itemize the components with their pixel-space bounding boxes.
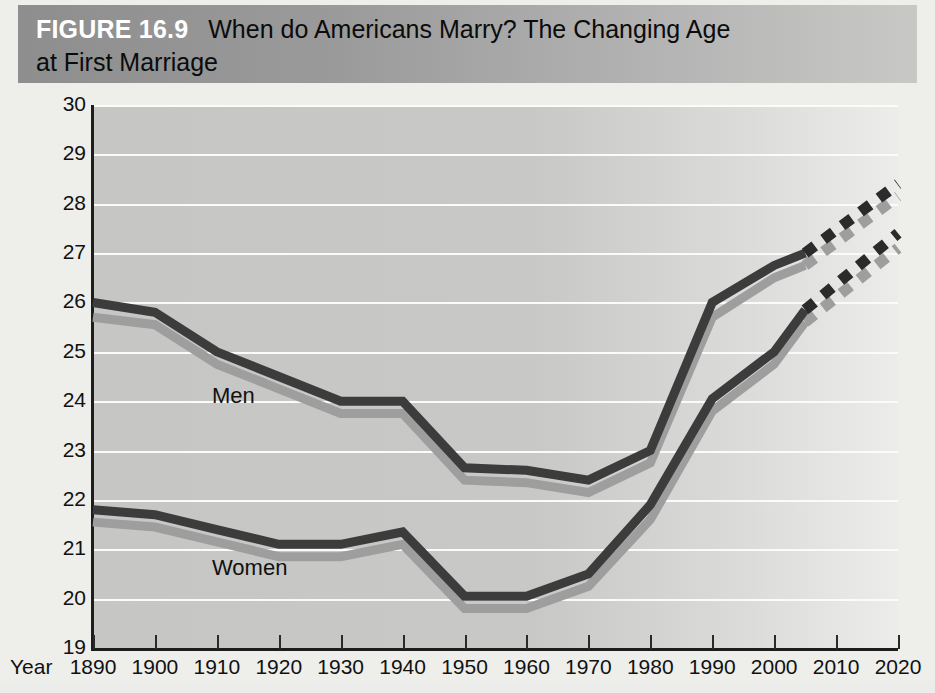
x-axis-tick-label: 1900	[132, 655, 179, 679]
gridline	[93, 204, 898, 206]
x-axis-tick-label: 1980	[627, 655, 674, 679]
figure-number-label: FIGURE 16.9	[36, 15, 188, 43]
x-axis-tick	[217, 635, 219, 649]
gridline	[93, 302, 898, 304]
figure-container: FIGURE 16.9When do Americans Marry? The …	[0, 0, 935, 693]
gridline	[93, 352, 898, 354]
x-axis-tick-label: 1970	[565, 655, 612, 679]
y-axis-tick-label: 30	[44, 92, 86, 116]
y-axis-tick-label: 25	[44, 339, 86, 363]
x-axis-tick-label: 1950	[441, 655, 488, 679]
y-axis-tick-label: 20	[44, 586, 86, 610]
x-axis-tick	[898, 635, 900, 649]
x-axis-tick-label: 1890	[70, 655, 117, 679]
series-label-women: Women	[212, 555, 287, 581]
series-label-men: Men	[212, 383, 255, 409]
y-axis-tick-label: 22	[44, 487, 86, 511]
x-axis-tick-label: 2020	[875, 655, 922, 679]
x-axis-tick-label: 1910	[193, 655, 240, 679]
x-axis-tick	[279, 635, 281, 649]
x-axis-tick	[155, 635, 157, 649]
x-axis-tick-label: 1930	[317, 655, 364, 679]
y-axis-tick-label: 21	[44, 536, 86, 560]
gridline	[93, 599, 898, 601]
figure-title-line-2: at First Marriage	[36, 46, 917, 79]
y-axis-tick-label: 27	[44, 240, 86, 264]
y-axis-title: Age	[0, 367, 1, 403]
gridline	[93, 500, 898, 502]
x-axis-tick-label: 1940	[379, 655, 426, 679]
y-axis-tick-label: 28	[44, 191, 86, 215]
x-axis-tick	[774, 635, 776, 649]
x-axis-tick	[836, 635, 838, 649]
figure-title-text-1: When do Americans Marry? The Changing Ag…	[208, 15, 730, 43]
y-axis-tick-label: 29	[44, 141, 86, 165]
x-axis-tick	[465, 635, 467, 649]
x-axis-tick	[712, 635, 714, 649]
x-axis-tick-label: 2010	[813, 655, 860, 679]
x-axis-tick	[588, 635, 590, 649]
x-axis-tick	[403, 635, 405, 649]
gridline	[93, 105, 898, 107]
figure-title-banner: FIGURE 16.9When do Americans Marry? The …	[18, 5, 917, 83]
x-axis-tick	[341, 635, 343, 649]
x-axis-tick	[650, 635, 652, 649]
y-axis-tick-label: 23	[44, 438, 86, 462]
x-axis-tick	[526, 635, 528, 649]
y-axis-line	[91, 105, 94, 650]
figure-title-line-1: FIGURE 16.9When do Americans Marry? The …	[36, 12, 917, 46]
y-axis-tick-labels: 302928272625242322212019	[20, 105, 86, 648]
x-axis-tick	[93, 635, 95, 649]
x-axis-tick-label: 1990	[689, 655, 736, 679]
chart-plot-wrapper: 302928272625242322212019 Age Year 189019…	[0, 83, 935, 693]
gridline	[93, 549, 898, 551]
y-axis-tick-label: 24	[44, 388, 86, 412]
x-axis-tick-label: 1920	[255, 655, 302, 679]
x-axis-line	[91, 648, 898, 651]
x-axis-tick-label: 2000	[751, 655, 798, 679]
gridline	[93, 253, 898, 255]
figure-bottom-strip	[0, 681, 935, 693]
x-axis-tick-label: 1960	[503, 655, 550, 679]
y-axis-tick-label: 26	[44, 289, 86, 313]
gridline	[93, 451, 898, 453]
gridline	[93, 154, 898, 156]
